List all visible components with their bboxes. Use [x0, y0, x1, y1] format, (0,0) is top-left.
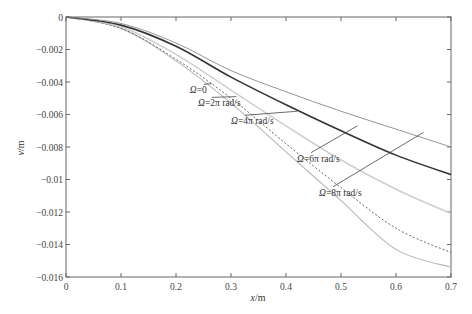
leader-line	[311, 126, 358, 153]
y-tick-label: −0.004	[36, 78, 63, 88]
x-tick-label: 0.5	[335, 282, 347, 292]
plot-axes: 00.10.20.30.40.50.60.70−0.002−0.004−0.00…	[36, 13, 457, 293]
plot-curves	[66, 17, 451, 267]
series-curve-0	[66, 17, 451, 267]
x-tick-label: 0	[64, 282, 69, 292]
x-tick-label: 0.2	[170, 282, 182, 292]
series-curve-1	[66, 17, 451, 253]
x-tick-label: 0.6	[390, 282, 402, 292]
y-tick-label: −0.01	[41, 175, 63, 185]
leader-line	[245, 111, 297, 115]
x-tick-label: 0.7	[445, 282, 457, 292]
leader-line	[212, 97, 237, 98]
plot-annotations: Ω=0Ω=2π rad/sΩ=4π rad/sΩ=6π rad/sΩ=8π ra…	[190, 84, 424, 198]
series-annotation-4: Ω=8π rad/s	[319, 188, 362, 198]
series-annotation-3: Ω=6π rad/s	[297, 154, 340, 164]
y-axis-label: v/m	[15, 140, 26, 155]
y-tick-label: −0.016	[36, 273, 63, 283]
x-tick-label: 0.3	[225, 282, 237, 292]
y-tick-label: −0.006	[36, 110, 63, 120]
series-annotation-0: Ω=0	[190, 85, 207, 95]
y-tick-label: −0.014	[36, 240, 63, 250]
y-tick-label: −0.002	[36, 45, 63, 55]
y-tick-label: −0.012	[36, 208, 63, 218]
series-annotation-1: Ω=2π rad/s	[198, 98, 241, 108]
deflection-chart: 00.10.20.30.40.50.60.70−0.002−0.004−0.00…	[0, 0, 472, 314]
plot-frame	[66, 17, 451, 277]
leader-line	[204, 84, 212, 85]
series-annotation-2: Ω=4π rad/s	[231, 116, 274, 126]
y-tick-label: 0	[58, 13, 63, 23]
x-tick-label: 0.4	[280, 282, 292, 292]
y-tick-label: −0.008	[36, 143, 63, 153]
x-tick-label: 0.1	[115, 282, 127, 292]
x-axis-label: x/m	[249, 292, 265, 303]
